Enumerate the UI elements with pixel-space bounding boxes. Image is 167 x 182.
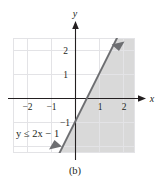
inequality-annotation: y ≤ 2x − 1 — [16, 128, 59, 139]
inequality-graph-figure: −2 −1 1 2 2 1 −1 x y y ≤ 2x − 1 (b) — [0, 0, 167, 182]
ytick-label-1: 1 — [63, 70, 68, 80]
xtick-label--1: −1 — [46, 102, 56, 112]
coordinate-plane-chart: −2 −1 1 2 2 1 −1 x y y ≤ 2x − 1 (b) — [0, 0, 167, 182]
xtick-label-2: 2 — [122, 102, 127, 112]
y-axis-arrowhead — [72, 21, 79, 29]
ytick-label-2: 2 — [63, 46, 68, 56]
y-axis-label: y — [72, 8, 78, 19]
xtick-label--2: −2 — [22, 102, 32, 112]
x-axis-label: x — [149, 93, 155, 104]
figure-caption: (b) — [69, 165, 82, 177]
x-axis-arrowhead — [138, 95, 146, 102]
xtick-label-1: 1 — [98, 102, 103, 112]
ytick-label--1: −1 — [60, 118, 70, 128]
